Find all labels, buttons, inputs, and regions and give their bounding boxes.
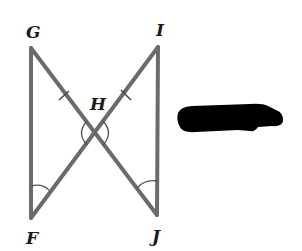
redaction-mark	[177, 104, 283, 132]
label-f: F	[25, 228, 40, 248]
label-j: J	[149, 226, 161, 246]
label-g: G	[26, 22, 41, 42]
angle-arc-j	[137, 181, 157, 188]
geometry-diagram: G I H F J	[0, 0, 302, 251]
segment-ij	[157, 47, 158, 215]
angle-arc-f	[31, 185, 49, 190]
label-h: H	[89, 94, 107, 114]
label-i: I	[155, 20, 165, 40]
